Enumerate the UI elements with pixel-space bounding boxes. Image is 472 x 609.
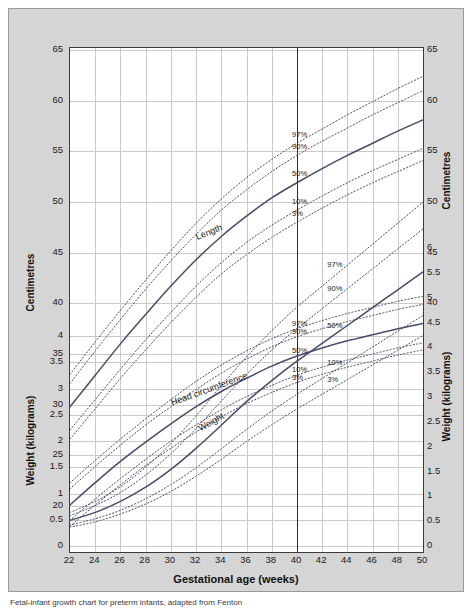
axis-tick-label: 0 — [427, 540, 432, 550]
axis-tick-label: 65 — [52, 44, 63, 54]
axis-tick-label: 1.5 — [50, 461, 63, 471]
percentile-label-weight-97: 97% — [327, 260, 342, 269]
percentile-label-head-50: 50% — [292, 346, 307, 355]
axis-tick-label: 0 — [58, 540, 63, 550]
axis-tick-label: 36 — [236, 555, 256, 565]
axis-tick-label: 45 — [52, 247, 63, 257]
percentile-label-weight-10: 10% — [327, 358, 342, 367]
axis-tick-label: 42 — [311, 555, 331, 565]
percentile-label-length-97: 97% — [292, 130, 307, 139]
axis-tick-label: 50 — [52, 196, 63, 206]
plot-area: LengthHead circumferenceWeight 97%90%50%… — [69, 47, 424, 553]
axis-tick-label: 50 — [427, 196, 438, 206]
axis-tick-label: 3.5 — [50, 356, 63, 366]
percentile-label-head-90: 90% — [292, 327, 307, 336]
axis-tick-label: 28 — [135, 555, 155, 565]
axis-tick-label: 55 — [52, 145, 63, 155]
axis-tick-label: 46 — [362, 555, 382, 565]
axis-tick-label: 40 — [52, 297, 63, 307]
axis-tick-label: 2 — [58, 435, 63, 445]
percentile-curve-head-97 — [70, 296, 423, 482]
percentile-label-weight-90: 90% — [327, 284, 342, 293]
percentile-label-head-3: 3% — [292, 373, 303, 382]
percentile-curve-length-50 — [70, 120, 423, 407]
axis-tick-label: 4 — [58, 330, 63, 340]
axis-tick-label: 2 — [427, 441, 432, 451]
axis-tick-label: 20 — [52, 500, 63, 510]
axis-tick-label: 3 — [58, 383, 63, 393]
left-axis-title-kilograms: Weight (kilograms) — [25, 395, 36, 485]
axis-tick-label: 3 — [427, 391, 432, 401]
axis-tick-label: 2.5 — [50, 409, 63, 419]
axis-tick-label: 55 — [427, 145, 438, 155]
right-axis-title-centimetres: Centimetres — [441, 152, 452, 210]
axis-tick-label: 48 — [387, 555, 407, 565]
axis-tick-label: 5.5 — [427, 267, 440, 277]
axis-tick-label: 4.5 — [427, 317, 440, 327]
axis-tick-label: 1 — [427, 490, 432, 500]
percentile-label-length-50: 50% — [292, 169, 307, 178]
left-axis-title-centimetres: Centimetres — [25, 253, 36, 311]
percentile-curve-weight-90 — [70, 229, 423, 516]
percentile-curve-weight-10 — [70, 316, 423, 525]
x-axis-title: Gestational age (weeks) — [9, 573, 463, 585]
axis-tick-label: 60 — [427, 95, 438, 105]
axis-tick-label: 4 — [427, 341, 432, 351]
percentile-curve-length-90 — [70, 91, 423, 384]
axis-tick-label: 30 — [52, 399, 63, 409]
axis-tick-label: 2.5 — [427, 416, 440, 426]
figure-caption: Fetal-infant growth chart for preterm in… — [10, 598, 462, 609]
axis-tick-label: 65 — [427, 44, 438, 54]
axis-tick-label: 50 — [412, 555, 432, 565]
chart-frame: Centimetres Weight (kilograms) Centimetr… — [8, 8, 464, 592]
percentile-curve-length-3 — [70, 160, 423, 439]
percentile-curve-weight-3 — [70, 335, 423, 527]
growth-curves — [70, 48, 423, 552]
axis-tick-label: 0.5 — [427, 515, 440, 525]
axis-tick-label: 40 — [286, 555, 306, 565]
axis-tick-label: 60 — [52, 95, 63, 105]
percentile-curve-weight-97 — [70, 202, 423, 512]
axis-tick-label: 3.5 — [427, 366, 440, 376]
axis-tick-label: 25 — [52, 449, 63, 459]
percentile-label-length-10: 10% — [292, 197, 307, 206]
axis-tick-label: 44 — [336, 555, 356, 565]
percentile-label-length-3: 3% — [292, 209, 303, 218]
axis-tick-label: 1 — [58, 488, 63, 498]
percentile-curve-length-97 — [70, 76, 423, 374]
percentile-curve-length-10 — [70, 148, 423, 430]
axis-tick-label: 32 — [185, 555, 205, 565]
percentile-curve-head-10 — [70, 343, 423, 520]
axis-tick-label: 0.5 — [50, 514, 63, 524]
axis-tick-label: 26 — [109, 555, 129, 565]
percentile-label-length-90: 90% — [292, 142, 307, 151]
axis-tick-label: 5 — [427, 292, 432, 302]
right-axis-title-kilograms: Weight (kilograms) — [441, 351, 452, 441]
axis-tick-label: 22 — [59, 555, 79, 565]
axis-tick-label: 24 — [84, 555, 104, 565]
axis-tick-label: 38 — [261, 555, 281, 565]
percentile-label-weight-50: 50% — [327, 321, 342, 330]
percentile-label-weight-3: 3% — [327, 375, 338, 384]
percentile-curve-head-90 — [70, 304, 423, 488]
axis-tick-label: 34 — [210, 555, 230, 565]
axis-tick-label: 6 — [427, 242, 432, 252]
axis-tick-label: 30 — [160, 555, 180, 565]
axis-tick-label: 1.5 — [427, 466, 440, 476]
